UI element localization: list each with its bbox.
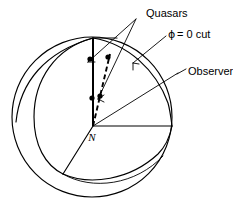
diagram-canvas: Quasars ϕ = 0 cut Observer N: [0, 0, 233, 223]
quasars-label: Quasars: [146, 7, 188, 19]
observer-label: Observer: [188, 65, 233, 77]
quasars-leader-line-upper: [88, 19, 136, 62]
observer-leader-line: [93, 73, 178, 126]
quasar-dot: [89, 95, 94, 100]
phi-cut-leader-line: [133, 36, 166, 63]
cutaway-lower-surface-arc: [63, 126, 172, 180]
phi-symbol-label: ϕ: [168, 28, 175, 41]
cutaway-front-meridian-arc: [34, 38, 93, 174]
phi-cut-tick-marker: [133, 63, 139, 70]
quasar-dot: [105, 54, 110, 59]
quasar-sphere-figure: Quasars ϕ = 0 cut Observer N: [0, 0, 233, 223]
phi-cut-equation-label: = 0 cut: [177, 28, 210, 40]
quasar-sightline-dashed: [93, 54, 110, 126]
center-node-label: N: [87, 131, 96, 143]
observer-label-leader: [177, 69, 186, 74]
cutaway-back-meridian-arc: [16, 38, 93, 122]
cutaway-lower-lip-arc: [63, 156, 163, 183]
quasars-leader-line-lower: [98, 19, 136, 99]
phi-zero-cut-arc: [93, 38, 172, 126]
